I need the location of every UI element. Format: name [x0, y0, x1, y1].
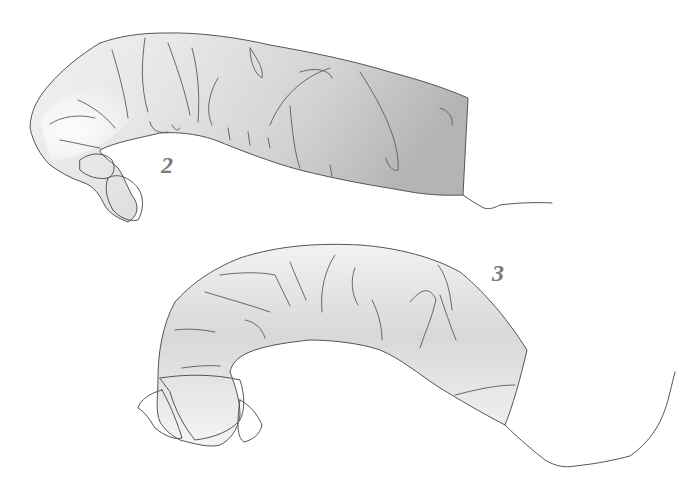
- specimen-3-body: [157, 244, 527, 446]
- illustration-plate: [0, 0, 696, 490]
- figure-label-2: 2: [161, 152, 173, 179]
- specimen-3: [138, 244, 675, 466]
- figure-label-3: 3: [492, 260, 504, 287]
- specimen-2: [30, 33, 552, 222]
